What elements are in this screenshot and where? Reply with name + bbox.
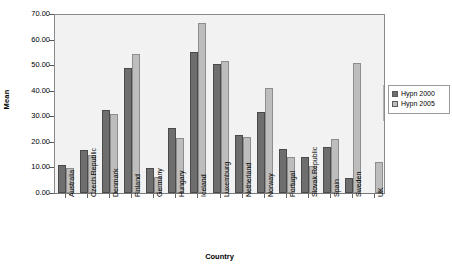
bar [102,110,110,193]
y-tick-mark [49,167,54,168]
bar-group [323,15,339,193]
x-tick-label: Finland [134,174,142,197]
bar-group [124,15,140,193]
legend-item-label: Hypn 2000 [401,90,435,98]
x-tick-mark [197,194,198,198]
y-tick-mark [49,116,54,117]
x-tick-label: Slovak Republic [311,147,319,197]
bar [198,23,206,193]
x-tick-mark [175,194,176,198]
bar-group [102,15,118,193]
y-tick-label: 70.00 [31,10,50,18]
x-tick-mark [153,194,154,198]
legend-item-label: Hypn 2005 [401,100,435,108]
y-tick-label: 60.00 [31,36,50,44]
bar [213,64,221,193]
y-tick-mark [49,193,54,194]
light-gray-swatch [392,101,398,107]
x-tick-mark [87,194,88,198]
bar [323,147,331,193]
x-tick-label: Australia [68,170,76,197]
x-tick-mark [220,194,221,198]
bar-chart: Mean 0.0010.0020.0030.0040.0050.0060.007… [0,0,452,266]
y-tick-mark [49,14,54,15]
bar [301,157,309,193]
x-tick-label: Czech Republic [90,148,98,197]
x-tick-label: Hungary [178,171,186,197]
bar [80,150,88,193]
bar [190,52,198,193]
bar-group [257,15,273,193]
legend-divider [383,85,384,121]
legend-item[interactable]: Hypn 2005 [392,99,446,108]
bar [124,68,132,193]
bar [58,165,66,193]
x-tick-label: Norway [267,173,275,197]
bar-group [367,15,383,193]
y-tick-label: 10.00 [31,163,50,171]
y-tick-mark [49,40,54,41]
x-tick-label: Luxemburg [223,162,231,197]
x-tick-label: Sweden [355,172,363,197]
x-tick-mark [242,194,243,198]
y-tick-label: 50.00 [31,61,50,69]
bar-group [146,15,162,193]
x-tick-mark [308,194,309,198]
y-tick-mark [49,65,54,66]
x-axis-title: Country [54,252,385,261]
bar [146,168,154,193]
y-tick-mark [49,142,54,143]
chart-legend: Hypn 2000Hypn 2005 [388,85,450,114]
y-tick-label: 40.00 [31,87,50,95]
y-tick-label: 20.00 [31,138,50,146]
bar [235,135,243,193]
x-tick-mark [286,194,287,198]
bar [345,178,353,193]
bar-group [345,15,361,193]
x-tick-label: Portugal [289,171,297,197]
x-tick-label: Netherland [245,163,253,197]
x-tick-label: UK [377,187,385,197]
bar [132,54,140,193]
bar-group [279,15,295,193]
y-tick-label: 0.00 [35,189,50,197]
x-tick-mark [352,194,353,198]
y-axis-tick-labels: 0.0010.0020.0030.0040.0050.0060.0070.00 [6,0,50,266]
y-tick-label: 30.00 [31,112,50,120]
x-tick-mark [374,194,375,198]
x-tick-mark [264,194,265,198]
plot-area [54,14,385,194]
bar-group [190,15,206,193]
legend-item[interactable]: Hypn 2000 [392,89,446,98]
bar [168,128,176,193]
bars-container [55,15,384,193]
dark-gray-swatch [392,91,398,97]
x-tick-label: Denmark [112,169,120,197]
bar-group [168,15,184,193]
x-tick-mark [65,194,66,198]
x-tick-mark [131,194,132,198]
x-tick-label: Spain [333,179,341,197]
y-tick-mark [49,91,54,92]
x-tick-mark [330,194,331,198]
bar [279,149,287,193]
bar-group [58,15,74,193]
x-tick-label: Germany [156,168,164,197]
bar [257,112,265,193]
x-tick-label: Iceland [200,174,208,197]
x-tick-mark [109,194,110,198]
